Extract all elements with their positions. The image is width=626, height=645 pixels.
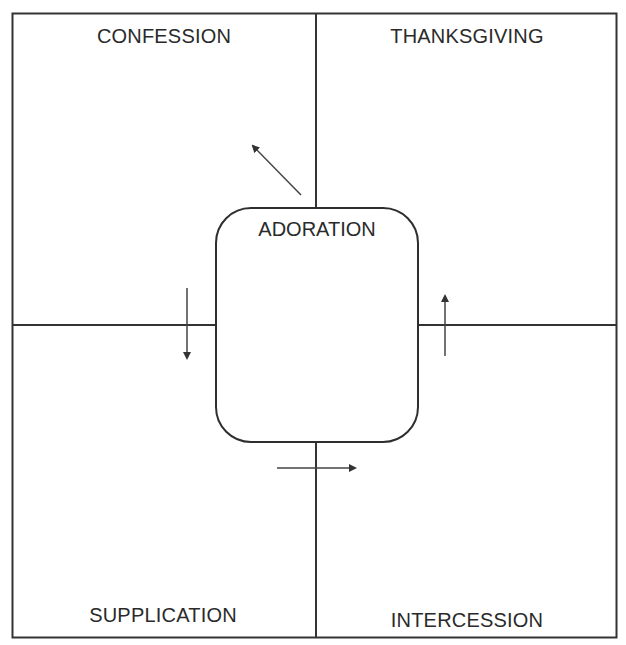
center-label-adoration: ADORATION [258, 219, 375, 239]
acts-prayer-diagram: CONFESSION THANKSGIVING SUPPLICATION INT… [0, 0, 626, 645]
quadrant-label-intercession: INTERCESSION [391, 610, 543, 630]
arrow-center-to-confession [253, 146, 301, 195]
quadrant-label-confession: CONFESSION [97, 26, 231, 46]
quadrant-label-supplication: SUPPLICATION [89, 605, 237, 625]
quadrant-label-thanksgiving: THANKSGIVING [390, 26, 544, 46]
center-box-adoration: ADORATION [215, 207, 419, 443]
